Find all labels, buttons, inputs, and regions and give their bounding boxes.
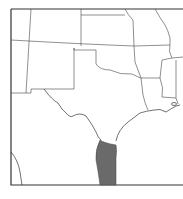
distribution-range	[96, 140, 117, 185]
state-borders	[11, 9, 183, 110]
coastline	[11, 89, 180, 185]
range-map	[0, 0, 183, 199]
